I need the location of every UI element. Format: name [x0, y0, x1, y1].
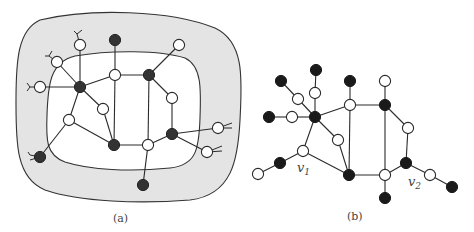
edges-b [258, 70, 452, 198]
inner-region [47, 52, 201, 170]
filled-vertex [343, 169, 354, 180]
open-vertex [379, 75, 390, 86]
filled-vertex [379, 99, 390, 110]
filled-vertex [143, 69, 154, 80]
open-vertex [109, 69, 120, 80]
filled-vertex [344, 75, 355, 86]
edge [349, 105, 350, 175]
open-vertex [332, 134, 343, 145]
filled-vertex [400, 157, 411, 168]
open-vertex [201, 146, 212, 157]
filled-vertex [74, 81, 85, 92]
open-vertex [344, 99, 355, 110]
open-vertex [297, 145, 308, 156]
filled-vertex [309, 111, 320, 122]
filled-vertex [446, 181, 457, 192]
open-vertex [74, 39, 85, 50]
filled-vertex [274, 157, 285, 168]
open-vertex [142, 139, 153, 150]
vertex-label-v2: v2 [408, 174, 421, 191]
panel-a: (a) [16, 12, 241, 225]
vertex-label-v1: v1 [297, 160, 310, 177]
filled-vertex [379, 192, 390, 203]
open-vertex [379, 169, 390, 180]
open-vertex [166, 92, 177, 103]
nodes-b [252, 64, 457, 203]
open-vertex [212, 122, 223, 133]
open-vertex [34, 81, 45, 92]
open-vertex [424, 169, 435, 180]
filled-vertex [137, 179, 148, 190]
filled-vertex [109, 34, 120, 45]
filled-vertex [34, 151, 45, 162]
filled-vertex [275, 75, 286, 86]
open-vertex [402, 122, 413, 133]
open-vertex [63, 114, 74, 125]
panel-b-caption: (b) [347, 210, 363, 223]
panel-a-caption: (a) [113, 212, 128, 225]
open-vertex [51, 56, 62, 67]
open-vertex [173, 39, 184, 50]
open-vertex [292, 93, 303, 104]
open-vertex [252, 168, 263, 179]
filled-vertex [166, 128, 177, 139]
filled-vertex [310, 64, 321, 75]
open-vertex [97, 103, 108, 114]
panel-b: v1 v2 (b) [252, 64, 457, 223]
open-vertex [309, 87, 320, 98]
filled-vertex [108, 139, 119, 150]
filled-vertex [263, 111, 274, 122]
open-vertex [286, 111, 297, 122]
graph-figure: (a) v1 v2 (b) [0, 0, 474, 232]
